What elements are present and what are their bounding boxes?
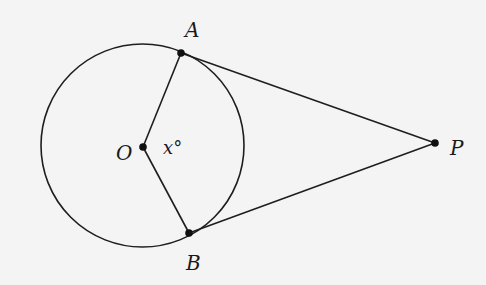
label-p: P xyxy=(449,136,464,160)
diagram-canvas: A O x° P B xyxy=(0,0,486,285)
label-a: A xyxy=(183,18,199,42)
point-a xyxy=(177,49,185,57)
label-b: B xyxy=(185,251,201,275)
radius-ob xyxy=(143,147,189,233)
point-p xyxy=(431,139,439,147)
point-b xyxy=(185,229,193,237)
label-o: O xyxy=(116,141,132,165)
point-o xyxy=(139,143,147,151)
label-angle-x: x° xyxy=(163,137,182,158)
tangent-bp xyxy=(189,143,435,233)
radius-oa xyxy=(143,53,181,147)
geometry-figure: A O x° P B xyxy=(0,0,486,285)
tangent-ap xyxy=(181,53,435,143)
